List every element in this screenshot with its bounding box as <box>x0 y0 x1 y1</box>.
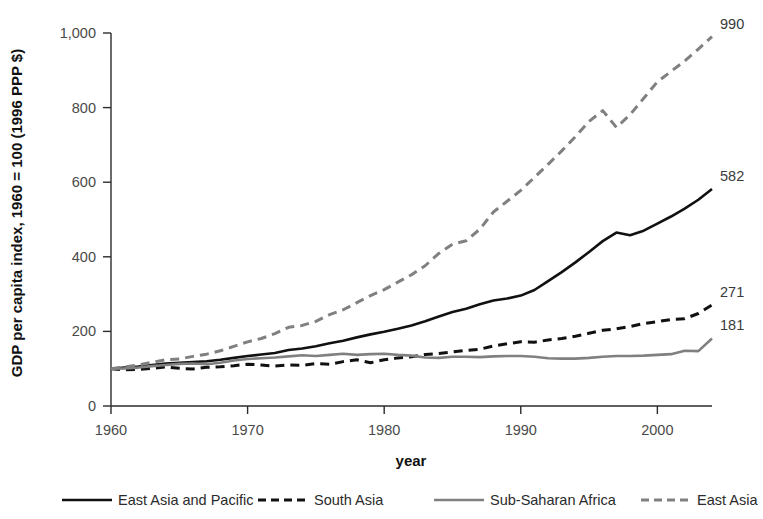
end-label-group: 582271181990 <box>720 16 744 334</box>
y-tick-label: 600 <box>72 174 96 190</box>
x-axis-title: year <box>396 452 427 469</box>
series-line-east-asia <box>111 37 712 369</box>
y-tick-label: 1,000 <box>60 25 96 41</box>
x-tick-label: 1980 <box>368 422 400 438</box>
x-tick-label: 1970 <box>231 422 263 438</box>
legend-label-south-asia: South Asia <box>314 492 384 508</box>
line-chart: GDP per capita index, 1960 = 100 (1996 P… <box>0 0 763 519</box>
y-tick-group: 02004006008001,000 <box>60 25 111 414</box>
legend-label-east-asia: East Asia <box>697 492 758 508</box>
x-tick-label: 2000 <box>641 422 673 438</box>
series-line-east-asia-and-pacific <box>111 189 712 369</box>
x-tick-group: 19601970198019902000 <box>95 406 674 438</box>
legend-label-east-asia-and-pacific: East Asia and Pacific <box>118 492 253 508</box>
end-label-south-asia: 271 <box>720 284 744 300</box>
y-tick-label: 0 <box>88 398 96 414</box>
end-label-sub-saharan-africa: 181 <box>720 317 744 333</box>
x-tick-label: 1990 <box>505 422 537 438</box>
chart-legend: East Asia and PacificSouth AsiaSub-Sahar… <box>62 492 758 508</box>
end-label-east-asia: 990 <box>720 16 744 32</box>
end-label-east-asia-and-pacific: 582 <box>720 168 744 184</box>
legend-label-sub-saharan-africa: Sub-Saharan Africa <box>490 492 617 508</box>
y-axis-title: GDP per capita index, 1960 = 100 (1996 P… <box>8 49 25 377</box>
y-tick-label: 200 <box>72 323 96 339</box>
chart-container: GDP per capita index, 1960 = 100 (1996 P… <box>0 0 763 519</box>
y-tick-label: 400 <box>72 249 96 265</box>
x-tick-label: 1960 <box>95 422 127 438</box>
axes <box>111 33 712 406</box>
series-group <box>111 37 712 370</box>
y-tick-label: 800 <box>72 100 96 116</box>
series-line-south-asia <box>111 305 712 370</box>
